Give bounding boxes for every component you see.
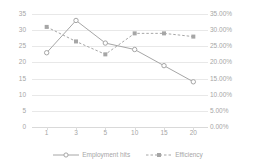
y-axis-right-tick: 30.00% — [210, 27, 254, 34]
y-axis-right-tick: 0.00% — [210, 124, 254, 131]
legend: Employment hits Efficiency — [0, 148, 256, 162]
legend-item-employment-hits[interactable]: Employment hits — [53, 151, 130, 159]
y-axis-left-tick: 5 — [0, 108, 26, 115]
gridline — [32, 79, 208, 80]
y-axis-right-tick: 15.00% — [210, 75, 254, 82]
legend-marker-dashed-icon — [146, 151, 172, 159]
y-axis-right-tick: 5.00% — [210, 108, 254, 115]
gridline — [32, 46, 208, 47]
x-axis-tick: 20 — [182, 130, 204, 137]
y-axis-left-tick: 25 — [0, 43, 26, 50]
gridline — [32, 95, 208, 96]
legend-label: Efficiency — [175, 152, 203, 159]
y-axis-left-tick: 15 — [0, 75, 26, 82]
y-axis-left-tick: 10 — [0, 91, 26, 98]
x-axis-tick: 1 — [36, 130, 58, 137]
y-axis-left-tick: 35 — [0, 11, 26, 18]
gridline — [32, 62, 208, 63]
y-axis-left-tick: 0 — [0, 124, 26, 131]
x-axis-tick: 15 — [153, 130, 175, 137]
x-axis-tick: 10 — [124, 130, 146, 137]
y-axis-right-tick: 25.00% — [210, 43, 254, 50]
legend-item-efficiency[interactable]: Efficiency — [146, 151, 203, 159]
plot-area — [32, 14, 208, 127]
y-axis-left-tick: 20 — [0, 59, 26, 66]
y-axis-right-tick: 35.00% — [210, 11, 254, 18]
legend-label: Employment hits — [82, 152, 130, 159]
gridline — [32, 111, 208, 112]
gridline — [32, 14, 208, 15]
y-axis-right-tick: 20.00% — [210, 59, 254, 66]
x-axis-line — [32, 127, 208, 128]
y-axis-right-tick: 10.00% — [210, 91, 254, 98]
x-axis-tick: 5 — [94, 130, 116, 137]
x-axis-tick: 3 — [65, 130, 87, 137]
legend-marker-solid-icon — [53, 151, 79, 159]
gridline — [32, 30, 208, 31]
y-axis-left-tick: 30 — [0, 27, 26, 34]
chart-container: 35 30 25 20 15 10 5 0 35.00% 30.00% 25.0… — [0, 0, 256, 166]
